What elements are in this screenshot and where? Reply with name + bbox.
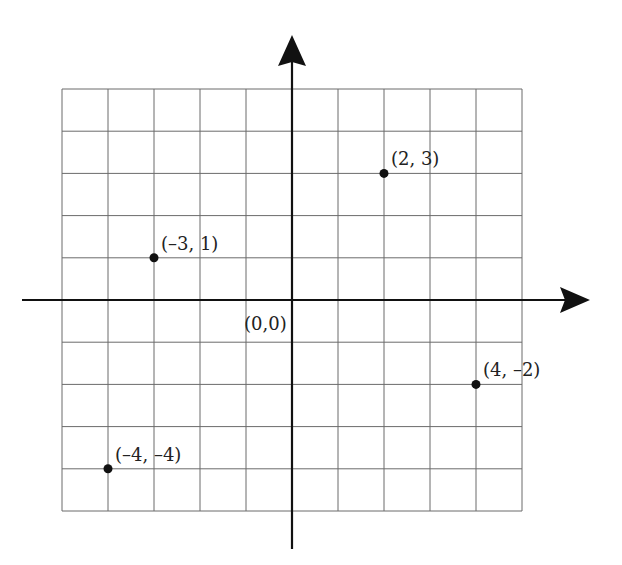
point-label: (4, –2) <box>483 359 540 380</box>
point-label: (–4, –4) <box>115 444 181 465</box>
point-marker <box>150 253 159 262</box>
y-axis-arrow-icon <box>278 35 306 66</box>
origin-label: (0,0) <box>244 313 287 334</box>
points: (–3, 1)(2, 3)(4, –2)(–4, –4) <box>104 148 541 473</box>
coordinate-plane: (–3, 1)(2, 3)(4, –2)(–4, –4) (0,0) <box>0 0 622 565</box>
point-marker <box>472 380 481 389</box>
point-marker <box>380 169 389 178</box>
point-marker <box>104 464 113 473</box>
point-label: (–3, 1) <box>161 233 218 254</box>
point-label: (2, 3) <box>391 148 439 169</box>
